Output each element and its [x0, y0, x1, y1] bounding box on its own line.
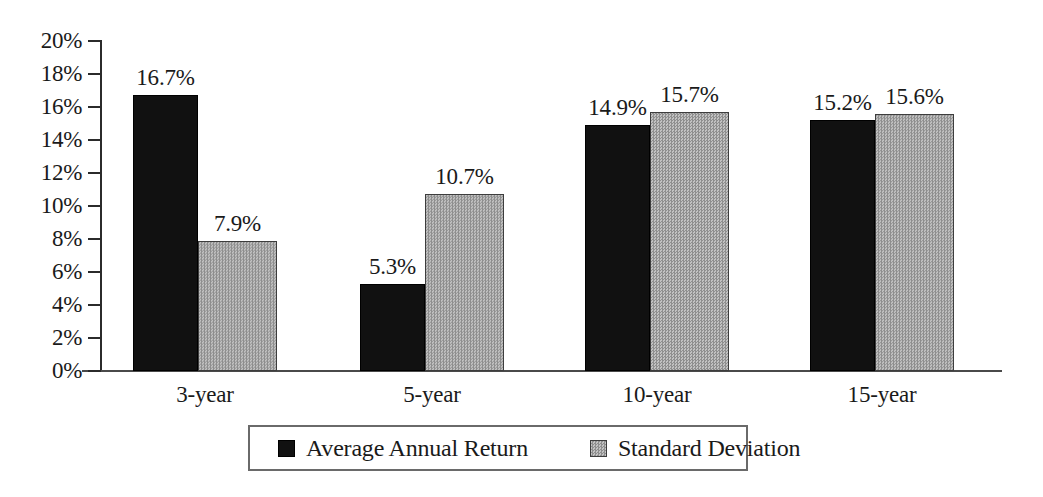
y-axis-tick — [88, 172, 101, 174]
y-axis-tick-label: 0% — [24, 359, 82, 382]
y-axis-tick — [88, 205, 101, 207]
y-axis-tick — [88, 271, 101, 273]
y-axis-tick — [88, 238, 101, 240]
y-axis-tick-label: 8% — [24, 227, 82, 250]
legend-label: Standard Deviation — [618, 436, 800, 460]
y-axis-tick-label: 18% — [24, 62, 82, 85]
y-axis-tick — [88, 370, 101, 372]
bar — [810, 120, 875, 371]
y-axis-tick-label: 4% — [24, 293, 82, 316]
bar — [650, 112, 729, 371]
y-axis-tick — [88, 139, 101, 141]
x-axis-category-label: 15-year — [807, 382, 957, 408]
x-axis-category-label: 5-year — [357, 382, 507, 408]
legend: Average Annual Return Standard Deviation — [248, 425, 748, 471]
bar — [585, 125, 650, 371]
y-axis-tick-label: 14% — [24, 128, 82, 151]
y-axis-tick — [88, 304, 101, 306]
legend-label: Average Annual Return — [306, 436, 528, 460]
bar-value-label: 15.6% — [870, 85, 960, 108]
y-axis-tick — [88, 40, 101, 42]
y-axis-tick — [88, 73, 101, 75]
y-axis-tick — [88, 337, 101, 339]
bar-value-label: 15.7% — [645, 83, 735, 106]
x-axis-category-label: 3-year — [130, 382, 280, 408]
y-axis-tick-label: 16% — [24, 95, 82, 118]
y-axis-tick-label: 6% — [24, 260, 82, 283]
bar-value-label: 16.7% — [121, 66, 211, 89]
legend-swatch-icon — [278, 440, 295, 457]
bar — [425, 194, 504, 371]
bar — [133, 95, 198, 371]
y-axis-tick — [88, 106, 101, 108]
legend-item-average-annual-return[interactable]: Average Annual Return — [278, 436, 528, 460]
y-axis-tick-label: 12% — [24, 161, 82, 184]
bar-value-label: 5.3% — [348, 255, 438, 278]
x-axis-category-label: 10-year — [582, 382, 732, 408]
y-axis-tick-label: 20% — [24, 29, 82, 52]
legend-item-standard-deviation[interactable]: Standard Deviation — [590, 436, 800, 460]
bar — [360, 284, 425, 371]
bar-value-label: 10.7% — [420, 165, 510, 188]
bar-chart: 0%2%4%6%8%10%12%14%16%18%20% 16.7%7.9%5.… — [0, 0, 1043, 497]
bar — [198, 241, 277, 371]
bar — [875, 114, 954, 371]
y-axis-tick-label: 2% — [24, 326, 82, 349]
legend-swatch-icon — [590, 440, 607, 457]
y-axis-tick-label: 10% — [24, 194, 82, 217]
bar-value-label: 7.9% — [193, 212, 283, 235]
